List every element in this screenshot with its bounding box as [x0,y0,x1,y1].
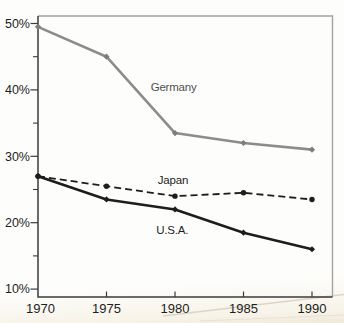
y-axis-tick-label: 30% [5,150,30,164]
y-axis-tick-label: 20% [5,216,30,230]
y-axis-tick-label: 10% [5,282,30,296]
y-axis-tick-label: 50% [5,17,30,31]
data-point-marker-usa [172,206,178,212]
y-axis-tick-label: 40% [5,83,30,97]
plot-border [38,16,333,297]
scan-artifact-line [200,315,344,321]
data-point-marker-usa [240,230,246,236]
series-label-japan: Japan [158,174,188,186]
data-point-marker-japan [309,197,314,202]
data-point-marker-usa [35,173,41,179]
chart-figure: 10%20%30%40%50%19701975198019851990Germa… [0,0,344,323]
line-chart: 10%20%30%40%50%19701975198019851990Germa… [0,0,344,323]
series-label-germany: Germany [151,81,197,93]
data-point-marker-usa [309,246,315,252]
x-axis-tick-label: 1975 [92,301,121,316]
x-axis-tick-label: 1990 [298,301,327,316]
data-point-marker-germany [240,140,246,146]
data-point-marker-japan [172,193,177,198]
x-axis-tick-label: 1980 [161,301,190,316]
data-point-marker-japan [241,190,246,195]
data-point-marker-usa [103,196,109,202]
data-point-marker-japan [104,183,109,188]
axis-line [38,16,333,297]
series-line-usa [38,176,312,249]
series-label-usa: U.S.A. [156,224,188,236]
data-point-marker-germany [309,147,315,153]
x-axis-tick-label: 1970 [26,301,55,316]
x-axis-tick-label: 1985 [229,301,258,316]
